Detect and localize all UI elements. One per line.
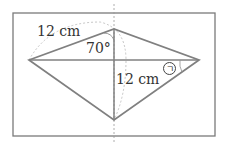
angle-arc-right: [180, 60, 182, 72]
center-length-label: 12 cm: [116, 72, 159, 86]
angle-arc-top: [104, 33, 114, 40]
side-length-label: 12 cm: [37, 24, 80, 38]
diagram-canvas: [0, 0, 227, 145]
angle-marker-label: ㄱ: [163, 62, 176, 75]
angle-label: 70°: [86, 41, 111, 55]
